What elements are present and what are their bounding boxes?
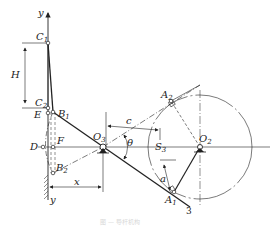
- label-link-3: 3: [186, 206, 192, 216]
- pivot-O3: [97, 144, 109, 153]
- joint-A1: [172, 190, 176, 194]
- label-H: H: [10, 69, 20, 80]
- label-y-bottom: y: [49, 194, 56, 205]
- guide-bar-mechanism-diagram: y y C1 C2 H E B1 D F B2 x O3 c θ S3 A2 O…: [0, 0, 272, 227]
- joint-B2: [51, 171, 55, 175]
- label-B2: B2: [55, 162, 68, 175]
- label-y-top: y: [37, 7, 44, 18]
- joint-D: [41, 145, 45, 149]
- label-D: D: [29, 141, 38, 152]
- label-A2: A2: [160, 89, 173, 102]
- label-theta: θ: [127, 137, 133, 148]
- joint-E: [46, 111, 50, 115]
- label-c: c: [126, 115, 132, 126]
- joint-F: [51, 145, 55, 149]
- label-E: E: [33, 109, 42, 120]
- label-C1: C1: [36, 31, 48, 44]
- crank-O2-A1: [174, 147, 200, 192]
- joint-B1: [51, 110, 55, 114]
- crank-O2-A2: [171, 101, 200, 147]
- label-a: a: [160, 173, 166, 184]
- output-rod: [48, 43, 53, 112]
- label-F: F: [56, 135, 65, 146]
- ground-hatch: [44, 175, 48, 199]
- label-S3: S3: [155, 141, 167, 154]
- figure-caption: 图 — 导杆机构: [100, 218, 140, 226]
- label-O2: O2: [199, 133, 212, 146]
- pivot-O2: [194, 145, 206, 153]
- arc-B-path: [46, 112, 54, 173]
- label-O3: O3: [93, 131, 106, 144]
- label-x: x: [74, 176, 80, 187]
